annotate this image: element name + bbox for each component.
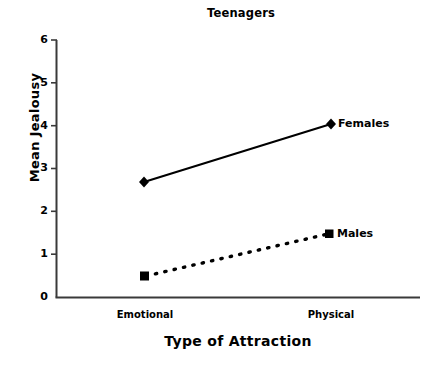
series-males: [140, 230, 334, 281]
series-males-marker-physical: [325, 230, 334, 239]
chart-figure: Teenagers Mean Jealousy 6 5 4 3 2 1 0 Em…: [0, 0, 442, 366]
plot-area: [0, 0, 442, 366]
series-females: [139, 119, 336, 188]
series-females-marker-emotional: [139, 177, 149, 188]
x-axis-title: Type of Attraction: [56, 333, 420, 349]
series-females-marker-physical: [326, 119, 336, 130]
series-males-line: [146, 234, 328, 276]
series-males-marker-emotional: [140, 272, 149, 281]
series-females-line: [144, 124, 331, 182]
